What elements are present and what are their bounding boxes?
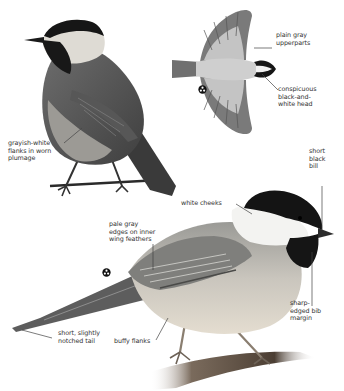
trefoil-icon	[198, 85, 207, 94]
perched-bird-side	[12, 190, 334, 390]
flight-bird	[172, 10, 276, 134]
label-pale-gray-wing-edges: pale gray edges on inner wing feathers	[109, 221, 155, 244]
label-top-bird-flanks: grayish-white flanks in worn plumage	[8, 140, 51, 163]
bird-illustrations	[0, 0, 344, 391]
label-sharp-edged-bib: sharp- edged bib margin	[290, 300, 321, 323]
label-black-and-white-head: conspicuous black-and- white head	[278, 86, 316, 109]
perched-bird-rear	[24, 20, 176, 196]
label-buffy-flanks: buffy flanks	[114, 338, 150, 346]
trefoil-icon	[102, 268, 111, 277]
label-short-black-bill: short black bill	[309, 148, 325, 171]
illustration-canvas: grayish-white flanks in worn plumage pla…	[0, 0, 344, 391]
label-white-cheeks: white cheeks	[181, 200, 222, 208]
label-short-notched-tail: short, slightly notched tail	[58, 330, 100, 345]
label-plain-gray-upperparts: plain gray upperparts	[276, 32, 310, 47]
